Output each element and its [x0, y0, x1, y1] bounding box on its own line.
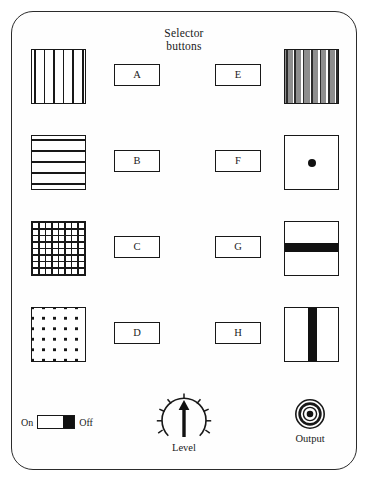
selector-panel: Selector buttons A E B F C G [11, 11, 357, 470]
horizontal-bar-swatch [284, 221, 339, 276]
selector-button-e[interactable]: E [215, 64, 261, 86]
selector-button-h[interactable]: H [215, 322, 261, 344]
selector-button-g[interactable]: G [215, 236, 261, 258]
selector-button-a[interactable]: A [114, 64, 160, 86]
selector-row-2: B F [12, 125, 356, 205]
selector-button-f[interactable]: F [215, 150, 261, 172]
horizontal-stripes-swatch [31, 135, 86, 190]
selector-button-b[interactable]: B [114, 150, 160, 172]
selector-button-c[interactable]: C [114, 236, 160, 258]
selector-row-4: D H [12, 297, 356, 377]
level-dial-icon[interactable] [155, 391, 213, 441]
dithered-stripes-swatch [284, 49, 339, 104]
center-dot-swatch [284, 135, 339, 190]
vertical-stripes-swatch [31, 49, 86, 104]
control-strip: On Off [12, 385, 356, 471]
dot-matrix-swatch [31, 307, 86, 362]
selector-row-1: A E [12, 39, 356, 119]
output-label: Output [280, 433, 340, 444]
selector-cell-f: F [202, 125, 350, 205]
selector-cell-b: B [20, 125, 168, 205]
grid-mesh-swatch [31, 221, 86, 276]
selector-cell-e: E [202, 39, 350, 119]
selector-cell-g: G [202, 211, 350, 291]
selector-cell-a: A [20, 39, 168, 119]
output-jack-icon[interactable] [293, 397, 327, 431]
output-jack-group: Output [280, 397, 340, 444]
selector-button-d[interactable]: D [114, 322, 160, 344]
selector-row-3: C G [12, 211, 356, 291]
selector-cell-h: H [202, 297, 350, 377]
selector-cell-c: C [20, 211, 168, 291]
vertical-bar-swatch [284, 307, 339, 362]
selector-cell-d: D [20, 297, 168, 377]
